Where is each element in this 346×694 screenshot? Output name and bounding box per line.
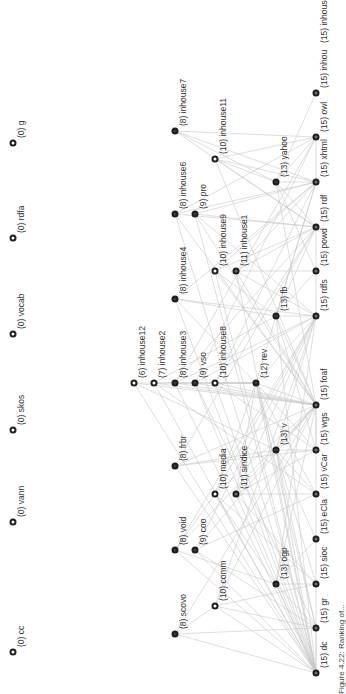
graph-node-rdfa — [10, 235, 17, 242]
node-label: (8) scovo — [179, 594, 188, 629]
graph-node-gr — [313, 625, 320, 632]
node-label: (15) rdf — [320, 195, 329, 222]
graph-node-coo — [192, 547, 199, 554]
graph-edge — [175, 214, 316, 673]
node-label: (8) frbr — [179, 436, 188, 462]
node-label: (15) vCar — [320, 454, 329, 489]
graph-node-inhouse4 — [172, 296, 179, 303]
graph-node-rdf — [313, 224, 320, 231]
node-label: (15) eCla — [320, 499, 329, 534]
node-label: (7) inhouse2 — [158, 331, 167, 378]
graph-node-frbr — [172, 463, 179, 470]
graph-node-inhouse1 — [233, 268, 240, 275]
graph-node-sioc — [313, 581, 320, 588]
graph-node-inhouse9 — [212, 268, 219, 275]
graph-node-v — [273, 447, 280, 454]
graph-node-rdfs — [313, 313, 320, 320]
graph-node-vann — [10, 519, 17, 526]
node-label: (15) foaf — [320, 368, 329, 400]
graph-node-void — [172, 547, 179, 554]
graph-node-cc — [10, 649, 17, 656]
node-label: (0) cc — [17, 626, 26, 647]
graph-edge — [195, 316, 316, 383]
graph-edge — [276, 450, 316, 628]
node-label: (9) pro — [199, 184, 208, 209]
graph-node-foaf — [313, 402, 320, 409]
node-label: (15) gr — [320, 598, 329, 623]
graph-node-yahoo — [273, 179, 280, 186]
graph-node-xhtml — [313, 179, 320, 186]
graph-edge — [215, 494, 316, 673]
graph-node-sindice — [233, 491, 240, 498]
node-label: (15) inhouse10 — [320, 0, 329, 43]
graph-edge — [215, 606, 316, 628]
node-label: (10) inhouse11 — [219, 98, 228, 154]
graph-edge — [175, 131, 316, 137]
graph-node-vCar — [313, 491, 320, 498]
node-label: (15) wgs — [320, 412, 329, 445]
graph-edge — [195, 383, 316, 628]
graph-node-powd — [313, 268, 320, 275]
node-label: (15) sioc — [320, 546, 329, 579]
graph-edge — [215, 137, 316, 159]
node-label: (15) owl — [320, 102, 329, 132]
graph-edge — [195, 550, 316, 628]
graph-node-vocab — [10, 331, 17, 338]
node-label: (12) rev — [260, 349, 269, 378]
graph-node-rev — [253, 380, 260, 387]
graph-node-pro — [192, 211, 199, 218]
graph-node-eCla — [313, 536, 320, 543]
graph-edge — [195, 550, 316, 673]
graph-edge — [175, 316, 316, 383]
graph-node-inhouse8 — [212, 380, 219, 387]
node-label: (10) inhouse8 — [219, 326, 228, 378]
node-label: (0) skos — [17, 395, 26, 425]
node-label: (0) g — [17, 121, 26, 138]
graph-edge — [215, 159, 316, 182]
node-label: (15) xhtml — [320, 139, 329, 177]
node-label: (8) inhouse3 — [179, 331, 188, 378]
node-label: (8) void — [179, 517, 188, 545]
graph-node-scovo — [172, 631, 179, 638]
graph-edge — [215, 159, 316, 227]
graph-node-inhouse2 — [151, 380, 158, 387]
node-label: (11) sindice — [240, 446, 249, 489]
node-label: (13) yahoo — [280, 136, 289, 177]
node-label: (9) vso — [199, 352, 208, 378]
graph-edge — [236, 494, 316, 584]
node-label: (8) inhouse7 — [179, 79, 188, 126]
graph-node-vso — [192, 380, 199, 387]
node-label: (11) inhouse1 — [240, 215, 249, 266]
graph-edge — [175, 131, 316, 182]
node-label: (10) comm — [219, 560, 228, 601]
graph-edge — [215, 383, 316, 673]
graph-node-dc — [313, 670, 320, 677]
graph-edge — [175, 299, 316, 316]
graph-node-inhou — [313, 90, 320, 97]
graph-edge — [195, 214, 316, 227]
node-label: (15) inhou — [320, 50, 329, 88]
node-label: (13) v — [280, 423, 289, 445]
graph-node-ogp — [273, 581, 280, 588]
graph-node-inhouse3 — [172, 380, 179, 387]
node-label: (15) dc — [320, 642, 329, 668]
graph-node-comm — [212, 603, 219, 610]
node-label: (9) coo — [199, 519, 208, 545]
graph-node-skos — [10, 427, 17, 434]
node-label: (13) fb — [280, 286, 289, 311]
graph-edge — [215, 271, 316, 405]
graph-node-inhouse6 — [172, 211, 179, 218]
graph-node-wgs — [313, 447, 320, 454]
node-label: (13) ogp — [280, 547, 289, 579]
graph-edge — [236, 271, 316, 316]
node-label: (0) rdfa — [17, 206, 26, 233]
graph-edge — [175, 182, 316, 214]
graph-node-inhouse12 — [131, 380, 138, 387]
node-label: (10) inhouse9 — [219, 214, 228, 266]
graph-node-inhouse7 — [172, 128, 179, 135]
node-label: (6) inhouse12 — [138, 326, 147, 378]
node-label: (0) vocab — [17, 294, 26, 329]
graph-node-owl — [313, 134, 320, 141]
